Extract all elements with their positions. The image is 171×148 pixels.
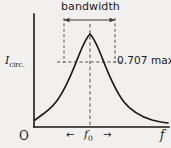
bandwidth-bracket [64,18,115,22]
resonance-curve-figure: bandwidth 0.707 max Icirc. O f ← f0 → [0,0,171,148]
y-axis-subscript: circ. [9,61,24,69]
center-frequency-right-arrow: → [103,130,111,140]
origin-label: O [19,130,29,142]
center-frequency-subscript: 0 [88,134,93,143]
y-axis-label: Icirc. [5,55,25,66]
plot-canvas [0,0,171,148]
x-axis-label: f [160,129,164,141]
resonance-curve [35,34,168,123]
center-frequency-left-arrow: ← [66,130,74,140]
half-power-label: 0.707 max [117,55,171,66]
center-frequency-label: f0 [84,129,93,140]
bandwidth-label: bandwidth [61,1,120,12]
